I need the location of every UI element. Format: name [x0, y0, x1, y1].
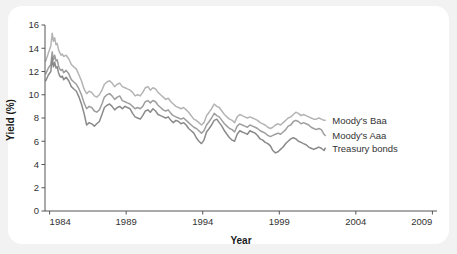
- y-tick-label: 6: [34, 136, 39, 147]
- series-line-0: [46, 33, 325, 128]
- x-tick-label: 1984: [50, 216, 71, 227]
- y-tick-label: 16: [28, 19, 39, 30]
- y-tick-label: 14: [28, 43, 39, 54]
- y-tick-label: 12: [28, 66, 39, 77]
- yield-chart: 0246810121416 198419891994199920042009 M…: [0, 0, 457, 254]
- y-tick-label: 0: [34, 205, 39, 216]
- y-tick-label: 2: [34, 182, 39, 193]
- x-tick-label: 1994: [192, 216, 213, 227]
- series-label-1: Moody's Aaa: [332, 130, 387, 141]
- series-label-2: Treasury bonds: [332, 143, 398, 154]
- y-tick-label: 10: [28, 89, 39, 100]
- x-tick-label: 1989: [116, 216, 137, 227]
- y-tick-label: 4: [34, 159, 39, 170]
- y-axis-title: Yield (%): [5, 99, 16, 141]
- x-tick-label: 2004: [345, 216, 366, 227]
- series-line-2: [46, 58, 325, 153]
- series-layer: [46, 33, 325, 153]
- series-end-labels: Moody's BaaMoody's AaaTreasury bonds: [332, 115, 398, 154]
- x-axis-tick-labels: 198419891994199920042009: [50, 216, 433, 227]
- x-axis-title: Year: [230, 235, 251, 246]
- chart-canvas: 0246810121416 198419891994199920042009 M…: [0, 0, 457, 254]
- series-label-0: Moody's Baa: [332, 115, 387, 126]
- y-axis-tick-labels: 0246810121416: [28, 19, 39, 216]
- x-tick-label: 1999: [269, 216, 290, 227]
- x-tick-label: 2009: [411, 216, 432, 227]
- y-tick-label: 8: [34, 112, 39, 123]
